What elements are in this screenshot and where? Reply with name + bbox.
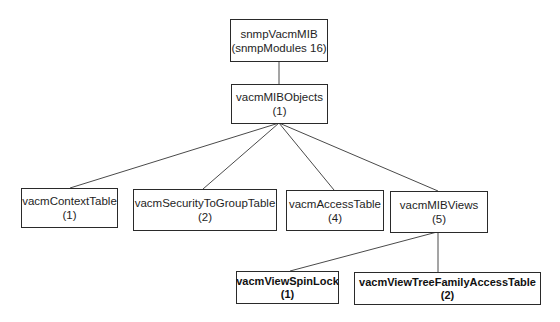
- node-vacm-view-spin-lock: vacmViewSpinLock (1): [236, 271, 339, 304]
- node-vacm-mib-objects: vacmMIBObjects (1): [231, 84, 328, 124]
- node-vacm-context-table: vacmContextTable (1): [21, 188, 118, 228]
- node-vacm-view-tree-family-access-table: vacmViewTreeFamilyAccessTable (2): [354, 272, 541, 305]
- node-oid: (1): [281, 288, 294, 301]
- edge-objects-mib-views: [279, 123, 438, 191]
- edge-objects-security-to-group-table: [203, 123, 279, 189]
- node-vacm-security-to-group-table: vacmSecurityToGroupTable (2): [133, 189, 277, 231]
- node-oid: (2): [441, 289, 454, 302]
- node-vacm-mib-views: vacmMIBViews (5): [390, 191, 488, 233]
- node-label: vacmViewSpinLock: [236, 275, 339, 288]
- node-label: vacmViewTreeFamilyAccessTable: [359, 276, 536, 289]
- node-vacm-access-table: vacmAccessTable (4): [286, 190, 384, 231]
- node-label: vacmAccessTable: [289, 197, 381, 211]
- node-oid: (snmpModules 16): [231, 41, 326, 55]
- node-label: snmpVacmMIB: [240, 27, 317, 41]
- edge-objects-context-table: [70, 123, 279, 188]
- node-label: vacmSecurityToGroupTable: [135, 196, 276, 210]
- node-oid: (5): [432, 212, 446, 226]
- node-label: vacmContextTable: [22, 194, 117, 208]
- edge-mib-views-view-spin-lock: [290, 232, 437, 271]
- node-oid: (1): [272, 104, 286, 118]
- node-oid: (4): [328, 211, 342, 225]
- node-oid: (2): [198, 210, 212, 224]
- node-label: vacmMIBViews: [400, 198, 478, 212]
- edge-objects-access-table: [279, 123, 334, 190]
- node-snmp-vacm-mib: snmpVacmMIB (snmpModules 16): [230, 19, 328, 62]
- node-label: vacmMIBObjects: [236, 90, 323, 104]
- node-oid: (1): [62, 208, 76, 222]
